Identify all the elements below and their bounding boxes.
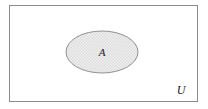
venn-diagram-canvas: A U (0, 0, 208, 109)
universal-set-label: U (177, 83, 187, 97)
set-a-label: A (98, 46, 106, 58)
venn-diagram: A U (0, 0, 208, 109)
